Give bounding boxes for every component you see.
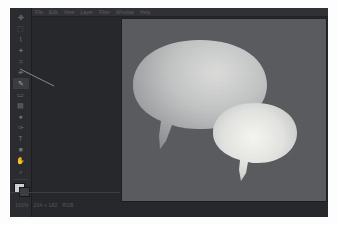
page-root: File Edit View Layer Filter Window Help …	[0, 0, 338, 225]
canvas-area[interactable]	[32, 8, 328, 217]
zoom-tool-icon[interactable]: ⌕	[13, 166, 29, 177]
palette-divider	[14, 179, 28, 180]
color-swatches	[14, 183, 28, 195]
application-window: File Edit View Layer Filter Window Help …	[10, 8, 328, 217]
status-zoom: 100%	[15, 202, 29, 208]
status-color-mode: RGB	[62, 202, 73, 208]
status-bar: 100% 204 x 182 RGB	[12, 195, 124, 215]
hand-tool-icon[interactable]: ✋	[13, 155, 29, 166]
lasso-tool-icon[interactable]: ⌇	[13, 34, 29, 45]
blur-tool-icon[interactable]: ●	[13, 111, 29, 122]
status-doc-size: 204 x 182	[34, 202, 58, 208]
brush-tool-icon[interactable]: ✎	[13, 78, 29, 89]
move-tool-icon[interactable]: ✥	[13, 12, 29, 23]
pen-tool-icon[interactable]: ✑	[13, 122, 29, 133]
status-divider	[10, 192, 120, 193]
marquee-select-tool-icon[interactable]: ⬚	[13, 23, 29, 34]
shape-tool-icon[interactable]: ■	[13, 144, 29, 155]
magic-wand-tool-icon[interactable]: ✦	[13, 45, 29, 56]
eyedropper-tool-icon[interactable]: ✒	[13, 67, 29, 78]
gradient-tool-icon[interactable]: ▤	[13, 100, 29, 111]
eraser-tool-icon[interactable]: ▭	[13, 89, 29, 100]
document-canvas[interactable]	[122, 19, 326, 201]
tool-palette: ✥ ⬚ ⌇ ✦ ⌗ ✒ ✎ ▭ ▤ ● ✑ T ■ ✋ ⌕	[10, 8, 32, 217]
text-tool-icon[interactable]: T	[13, 133, 29, 144]
crop-tool-icon[interactable]: ⌗	[13, 56, 29, 67]
speech-bubble-small[interactable]	[210, 101, 300, 183]
